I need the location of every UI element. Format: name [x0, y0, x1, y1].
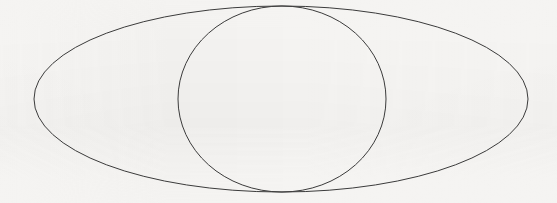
diagram-svg — [0, 0, 557, 203]
figure-canvas — [0, 0, 557, 203]
wide-ellipse — [34, 6, 528, 192]
round-ellipse — [178, 6, 386, 192]
